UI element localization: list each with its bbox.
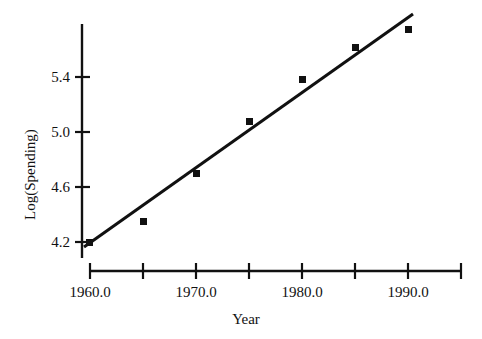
x-tick-label-1970: 1970.0 bbox=[175, 285, 216, 300]
x-tick-label-1980: 1980.0 bbox=[281, 285, 322, 300]
y-tick-label-4.2: 4.2 bbox=[26, 235, 70, 250]
data-point-1970 bbox=[193, 170, 200, 177]
data-point-1985 bbox=[352, 44, 359, 51]
data-point-1965 bbox=[140, 218, 147, 225]
data-points bbox=[86, 26, 412, 246]
data-point-1990 bbox=[405, 26, 412, 33]
data-point-1960 bbox=[86, 239, 93, 246]
x-tick-label-1960: 1960.0 bbox=[69, 285, 110, 300]
x-tick-label-1990: 1990.0 bbox=[387, 285, 428, 300]
data-point-1980 bbox=[299, 76, 306, 83]
axes bbox=[82, 24, 462, 271]
regression-line bbox=[84, 14, 413, 247]
chart-figure: 4.2 4.6 5.0 5.4 1960.0 1970.0 1980.0 199… bbox=[0, 0, 482, 339]
x-axis-title: Year bbox=[232, 311, 260, 328]
y-axis-title: Log(Spending) bbox=[22, 129, 39, 220]
data-point-1975 bbox=[246, 118, 253, 125]
y-tick-label-5.4: 5.4 bbox=[26, 70, 70, 85]
